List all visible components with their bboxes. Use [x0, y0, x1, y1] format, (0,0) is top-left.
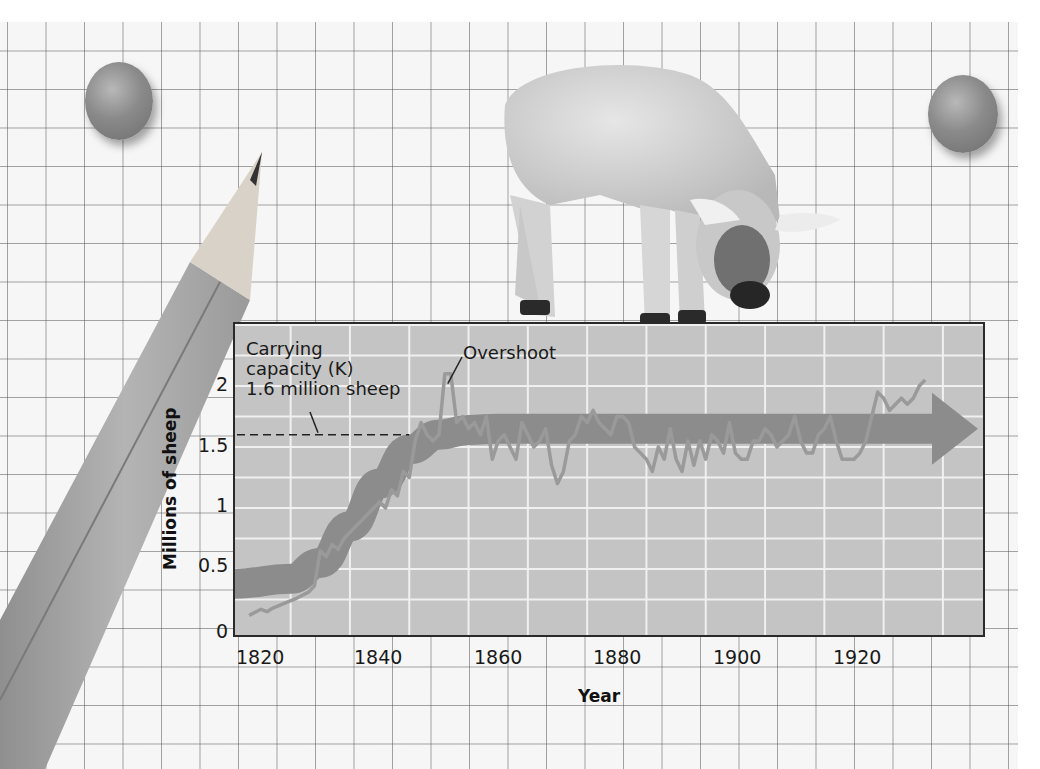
overshoot-label: Overshoot: [463, 343, 556, 363]
carrying-capacity-line3: 1.6 million sheep: [246, 379, 400, 399]
x-tick-label: 1840: [354, 646, 402, 668]
carrying-capacity-label: Carrying capacity (K) 1.6 million sheep: [246, 339, 400, 399]
x-tick-label: 1860: [474, 646, 522, 668]
x-tick-label: 1900: [713, 646, 761, 668]
carrying-capacity-line1: Carrying: [246, 339, 400, 359]
y-tick-label: 0.5: [198, 554, 228, 576]
x-tick-label: 1880: [593, 646, 641, 668]
carrying-capacity-leader-line: [310, 412, 318, 433]
carrying-capacity-line2: capacity (K): [246, 359, 400, 379]
overshoot-leader-line: [448, 357, 462, 384]
y-tick-label: 1: [216, 494, 228, 516]
x-tick-label: 1920: [833, 646, 881, 668]
x-axis-label: Year: [578, 686, 620, 706]
arrowhead-icon: [932, 393, 978, 465]
x-tick-label: 1820: [236, 646, 284, 668]
y-tick-label: 2: [216, 373, 228, 395]
y-tick-label: 1.5: [198, 434, 228, 456]
y-axis-label: Millions of sheep: [160, 408, 180, 571]
logistic-trend-arrow: [235, 429, 935, 584]
y-tick-label: 0: [216, 620, 228, 642]
